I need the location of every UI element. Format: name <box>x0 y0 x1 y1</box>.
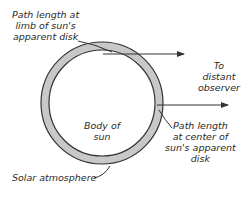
label-line: Body of <box>84 120 120 131</box>
label-center-path: Path length at center of sun's apparent … <box>165 120 236 164</box>
label-line: Path length <box>165 120 236 131</box>
label-observer: To distant observer <box>198 60 240 93</box>
label-line: Path length at <box>12 9 79 20</box>
label-line: limb of sun's <box>12 20 79 31</box>
label-body-of-sun: Body of sun <box>84 120 120 142</box>
label-line: sun <box>84 131 120 142</box>
label-line: at center of <box>165 131 236 142</box>
label-line: observer <box>198 82 240 93</box>
label-line: apparent disk <box>12 31 79 42</box>
label-limb-path: Path length at limb of sun's apparent di… <box>12 9 79 42</box>
label-line: disk <box>165 153 236 164</box>
label-line: To <box>198 60 240 71</box>
label-solar-atmosphere: Solar atmosphere <box>12 172 96 183</box>
label-line: sun's apparent <box>165 142 236 153</box>
label-line: distant <box>198 71 240 82</box>
